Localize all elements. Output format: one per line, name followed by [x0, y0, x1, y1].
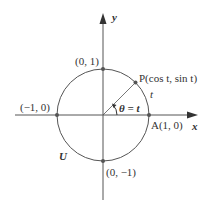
- point-left: [55, 113, 59, 117]
- label-bottom: (0, −1): [106, 166, 136, 179]
- label-p: P(cos t, sin t): [139, 72, 197, 85]
- point-a: [147, 113, 151, 117]
- circle-label: U: [59, 150, 68, 162]
- y-axis-label: y: [110, 11, 117, 23]
- arc-label: t: [150, 88, 154, 100]
- unit-circle-diagram: y x (0, 1) (−1, 0) A(1, 0) (0, −1) P(cos…: [0, 0, 215, 212]
- label-a: A(1, 0): [151, 119, 183, 132]
- label-left: (−1, 0): [20, 101, 50, 114]
- angle-label: θ = t: [119, 102, 140, 114]
- x-axis-label: x: [191, 120, 198, 132]
- x-axis-arrow-icon: [187, 112, 198, 119]
- point-top: [101, 67, 105, 71]
- label-top: (0, 1): [75, 55, 99, 68]
- point-p: [134, 81, 138, 85]
- point-bottom: [101, 159, 105, 163]
- y-axis-arrow-icon: [100, 13, 107, 24]
